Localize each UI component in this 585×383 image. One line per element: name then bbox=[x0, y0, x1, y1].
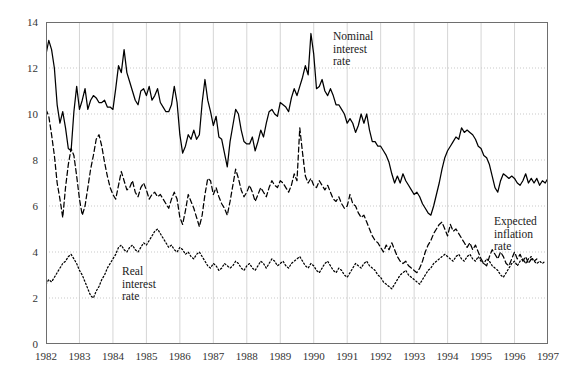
real-interest-rate-label: Real interest rate bbox=[122, 265, 156, 303]
y-tick-2: 2 bbox=[4, 293, 38, 303]
series-line-nominal-interest-rate bbox=[46, 34, 548, 216]
horizontal-gridlines bbox=[46, 68, 548, 298]
y-tick-0: 0 bbox=[4, 339, 38, 349]
x-tick-1997: 1997 bbox=[522, 350, 574, 362]
y-tick-4: 4 bbox=[4, 247, 38, 257]
y-tick-14: 14 bbox=[4, 17, 38, 27]
y-tick-8: 8 bbox=[4, 155, 38, 165]
data-series-group bbox=[46, 34, 548, 299]
interest-rate-chart: 02468101214 1982198319841985198619871988… bbox=[0, 0, 585, 383]
nominal-interest-rate-label: Nominal interest rate bbox=[333, 30, 373, 68]
series-line-real-interest-rate bbox=[46, 229, 545, 298]
y-tick-12: 12 bbox=[4, 63, 38, 73]
y-tick-10: 10 bbox=[4, 109, 38, 119]
expected-inflation-rate-label: Expected inflation rate bbox=[494, 215, 537, 253]
y-tick-6: 6 bbox=[4, 201, 38, 211]
series-line-expected-inflation-rate bbox=[46, 109, 537, 272]
